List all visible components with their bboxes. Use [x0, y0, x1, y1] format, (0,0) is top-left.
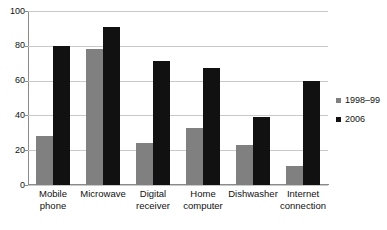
bar-group: [136, 11, 170, 185]
bar: [36, 136, 53, 185]
x-axis-label: Internetconnection: [275, 188, 331, 211]
bar: [136, 143, 153, 185]
bar: [286, 166, 303, 185]
legend-label: 2006: [345, 115, 365, 124]
x-axis-label: Mobilephone: [25, 188, 81, 211]
x-label-line: Internet: [275, 188, 331, 200]
legend: 1998–992006: [336, 96, 387, 134]
bar: [186, 128, 203, 185]
y-tick-label-80: 80: [15, 41, 25, 50]
x-axis-category-labels: MobilephoneMicrowaveDigitalreceiverHomec…: [28, 188, 328, 228]
bar-group: [236, 11, 270, 185]
y-tick-label-20: 20: [15, 146, 25, 155]
legend-item: 1998–99: [336, 96, 387, 105]
x-label-line: phone: [25, 200, 81, 212]
x-axis-label: Dishwasher: [225, 188, 281, 200]
legend-swatch-icon: [336, 98, 341, 103]
bar: [103, 27, 120, 185]
bar: [236, 145, 253, 185]
legend-item: 2006: [336, 115, 387, 124]
bar: [153, 61, 170, 185]
plot-area: [28, 11, 328, 185]
bar: [253, 117, 270, 185]
x-axis-label: Microwave: [75, 188, 131, 200]
bar-chart: 020406080100 MobilephoneMicrowaveDigital…: [0, 0, 387, 230]
x-label-line: computer: [175, 200, 231, 212]
bar: [303, 81, 320, 185]
bar-group: [286, 11, 320, 185]
x-axis-label: Homecomputer: [175, 188, 231, 211]
y-tick-label-40: 40: [15, 111, 25, 120]
x-label-line: connection: [275, 200, 331, 212]
bar-group: [186, 11, 220, 185]
x-label-line: Mobile: [25, 188, 81, 200]
bar: [203, 68, 220, 185]
x-label-line: receiver: [125, 200, 181, 212]
y-tick-label-60: 60: [15, 76, 25, 85]
x-label-line: Home: [175, 188, 231, 200]
y-tick-label-100: 100: [10, 7, 25, 16]
bar: [53, 46, 70, 185]
gridline-0: [28, 185, 328, 186]
bar-groups: [28, 11, 328, 185]
x-label-line: Microwave: [75, 188, 131, 200]
bar-group: [36, 11, 70, 185]
bar-group: [86, 11, 120, 185]
x-label-line: Digital: [125, 188, 181, 200]
x-axis-label: Digitalreceiver: [125, 188, 181, 211]
x-label-line: Dishwasher: [225, 188, 281, 200]
legend-label: 1998–99: [345, 96, 380, 105]
y-axis-tick-labels: 020406080100: [0, 11, 25, 185]
bar: [86, 49, 103, 185]
legend-swatch-icon: [336, 117, 341, 122]
